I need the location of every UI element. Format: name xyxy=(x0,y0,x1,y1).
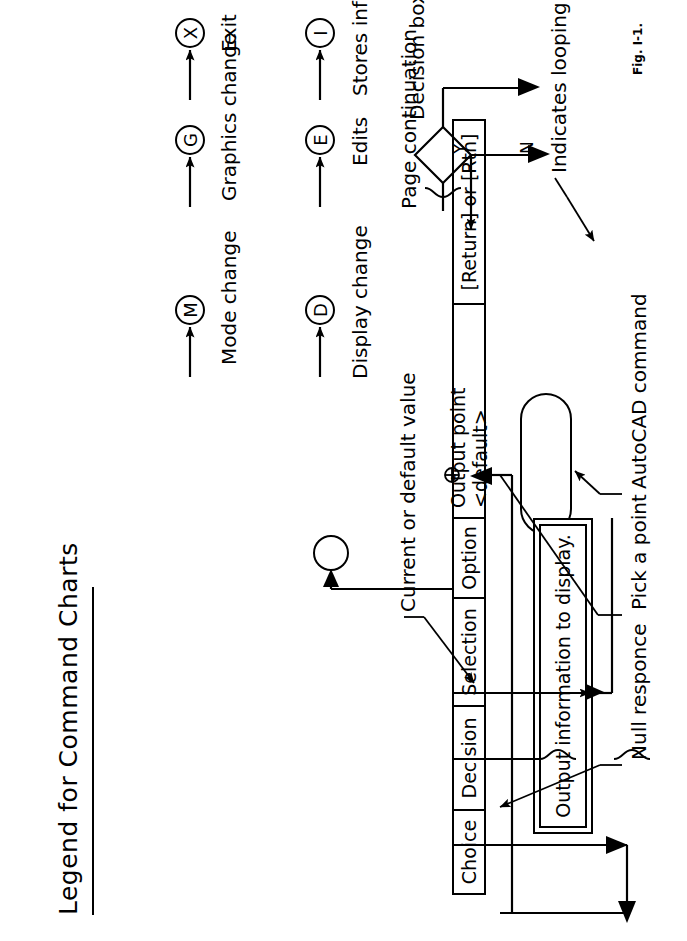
diamond-no-branch xyxy=(443,88,520,127)
arrowhead-choice-down xyxy=(606,836,628,854)
arrowhead-decision-yes xyxy=(528,145,550,163)
selection-to-output-box xyxy=(452,518,612,693)
output-point-cross-marker xyxy=(445,468,459,482)
arrowhead-return-to-band xyxy=(470,467,492,485)
figure-page: Legend for Command Charts Fig. I-1. Choi… xyxy=(0,0,687,941)
decision-diamond[interactable] xyxy=(415,127,471,183)
leader-autocad-command xyxy=(575,471,622,494)
leader-current-or-default xyxy=(404,617,474,683)
arrowhead-decision-no xyxy=(518,78,540,96)
looping-squiggle xyxy=(614,750,650,759)
choice-loop xyxy=(452,845,627,913)
leader-pick-a-point xyxy=(500,475,622,615)
option-to-page-continuation xyxy=(331,573,452,589)
arrowhead-choice-loop xyxy=(618,901,636,923)
rotated-sheet: Legend for Command Charts Fig. I-1. Choi… xyxy=(0,0,687,941)
decision-to-diamond xyxy=(452,750,576,759)
diamond-yes-branch xyxy=(471,155,530,229)
arrowhead-page-continuation xyxy=(323,569,339,587)
arrowhead-into-output-box xyxy=(586,684,604,700)
leader-null-responce xyxy=(500,765,622,807)
connector-layer xyxy=(0,0,687,941)
leader-indicates-looping xyxy=(555,178,594,241)
node-arrows xyxy=(190,50,320,377)
